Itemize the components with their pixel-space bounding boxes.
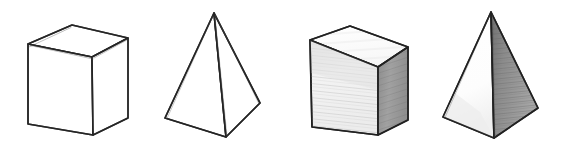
solids-canvas [0, 0, 564, 149]
cube-shaded [310, 26, 408, 135]
geometric-solids-figure: Four hand-drawn geometric solids Pencil … [0, 0, 564, 149]
cube-outline-face-front [28, 44, 93, 135]
cube-outline [28, 25, 128, 135]
